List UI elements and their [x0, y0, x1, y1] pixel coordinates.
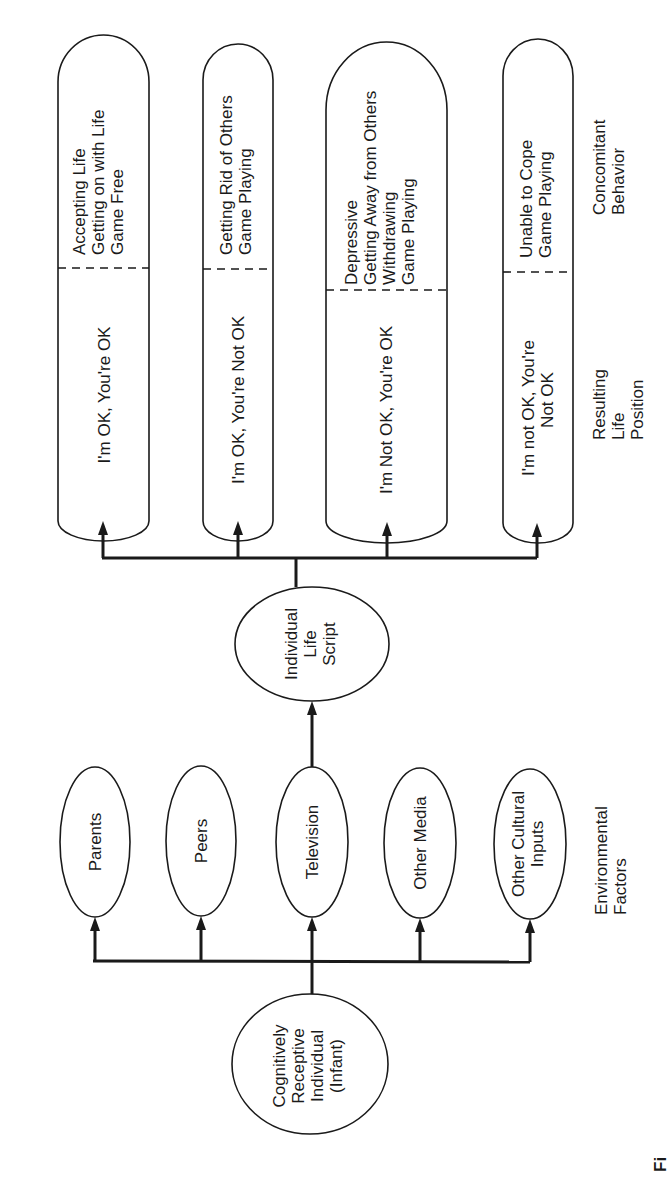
svg-text:Factors: Factors	[611, 858, 630, 915]
svg-text:Individual: Individual	[308, 1030, 327, 1102]
factor-other-cultural-inputs: Other Cultural Inputs	[494, 769, 566, 919]
svg-text:Behavior: Behavior	[609, 148, 628, 215]
svg-text:Peers: Peers	[192, 819, 211, 863]
svg-text:Getting Rid of Others: Getting Rid of Others	[217, 95, 236, 255]
svg-text:Concomitant: Concomitant	[590, 119, 609, 215]
cognitively-receptive-individual-node: Cognitively Receptive Individual (Infant…	[232, 994, 388, 1134]
svg-text:I'm OK, You're OK: I'm OK, You're OK	[95, 326, 114, 464]
factor-television: Television	[276, 767, 348, 917]
svg-text:Television: Television	[303, 805, 322, 880]
figure-caption-fragment: Fi	[651, 1157, 669, 1172]
position-text-3: I'm Not OK, You're OK	[377, 325, 396, 494]
outcome-box-4	[503, 39, 573, 543]
svg-text:Game Playing: Game Playing	[399, 178, 418, 285]
svg-text:Not OK: Not OK	[538, 371, 557, 427]
svg-text:Fi: Fi	[651, 1157, 669, 1172]
position-text-2: I'm OK, You're Not OK	[229, 315, 248, 484]
connector-infant-to-factors	[90, 916, 535, 995]
svg-text:Unable to Cope: Unable to Cope	[517, 140, 536, 258]
connector-script-to-outcomes	[98, 521, 542, 587]
svg-text:Inputs: Inputs	[528, 821, 547, 867]
svg-text:I'm OK, You're Not OK: I'm OK, You're Not OK	[229, 315, 248, 484]
factor-other-media: Other Media	[384, 768, 456, 918]
svg-text:Other Media: Other Media	[411, 796, 430, 890]
arrow-head-icon	[415, 918, 425, 932]
factor-parents: Parents	[60, 767, 130, 917]
arrow-head-icon	[525, 919, 535, 933]
svg-text:(Infant): (Infant)	[327, 1039, 346, 1093]
arrow-head-icon	[90, 917, 100, 931]
svg-text:Game Free: Game Free	[108, 169, 127, 255]
resulting-life-position-label: Resulting Life Position	[590, 369, 647, 440]
svg-text:Depressive: Depressive	[342, 200, 361, 285]
svg-text:Accepting Life: Accepting Life	[70, 148, 89, 255]
behavior-text-4: Unable to Cope Game Playing	[517, 140, 555, 258]
svg-text:Getting Away from Others: Getting Away from Others	[361, 91, 380, 285]
concomitant-behavior-label: Concomitant Behavior	[590, 119, 628, 215]
svg-text:Game Playing: Game Playing	[236, 148, 255, 255]
svg-text:Individual: Individual	[282, 608, 301, 680]
factor-peers: Peers	[166, 766, 236, 916]
svg-text:Script: Script	[320, 622, 339, 666]
arrow-head-icon	[307, 917, 317, 931]
environmental-factors-label: Environmental Factors	[592, 806, 630, 915]
position-text-1: I'm OK, You're OK	[95, 326, 114, 464]
svg-text:Cognitively: Cognitively	[270, 1024, 289, 1108]
connector-factors-to-script	[307, 701, 317, 767]
svg-text:Game Playing: Game Playing	[536, 151, 555, 258]
svg-text:Life: Life	[609, 413, 628, 440]
svg-text:Life: Life	[301, 630, 320, 657]
svg-text:Other Cultural: Other Cultural	[509, 791, 528, 897]
svg-text:I'm not OK, You're: I'm not OK, You're	[519, 340, 538, 476]
arrow-head-icon	[196, 916, 206, 930]
svg-text:Resulting: Resulting	[590, 369, 609, 440]
life-script-diagram: Accepting Life Getting on with Life Game…	[0, 0, 669, 1189]
svg-text:Parents: Parents	[86, 813, 105, 872]
svg-text:I'm Not OK, You're OK: I'm Not OK, You're OK	[377, 325, 396, 494]
svg-text:Getting on with Life: Getting on with Life	[89, 109, 108, 255]
svg-text:Receptive: Receptive	[289, 1028, 308, 1104]
svg-text:Environmental: Environmental	[592, 806, 611, 915]
svg-text:Withdrawing: Withdrawing	[380, 191, 399, 285]
svg-text:Position: Position	[628, 380, 647, 440]
individual-life-script-node: Individual Life Script	[235, 587, 389, 701]
arrow-head-icon	[307, 701, 317, 715]
